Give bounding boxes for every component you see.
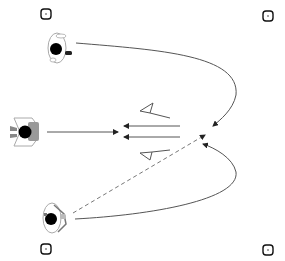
cone-marker-top-right-icon — [263, 11, 273, 21]
drill-diagram — [0, 0, 285, 261]
deflection-mark-upper — [140, 103, 170, 118]
arrow-dashed-diagonal — [73, 135, 205, 213]
cone-marker-bottom-left-icon — [41, 244, 51, 254]
diagram-canvas — [0, 0, 285, 261]
cone-marker-bottom-right-icon — [263, 245, 273, 255]
player-bottom-icon — [43, 203, 66, 233]
cone-marker-top-left-icon — [41, 9, 51, 19]
arrow-top-curve — [76, 43, 236, 126]
arrow-bottom-curve — [75, 144, 236, 219]
player-middle-icon — [10, 118, 39, 146]
player-top-icon — [48, 33, 72, 63]
